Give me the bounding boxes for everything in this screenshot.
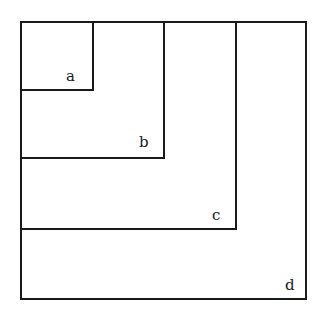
label-d: d [285, 278, 295, 293]
label-c: c [212, 208, 220, 223]
label-a: a [66, 69, 75, 84]
square-a [20, 21, 94, 91]
label-b: b [139, 135, 149, 150]
